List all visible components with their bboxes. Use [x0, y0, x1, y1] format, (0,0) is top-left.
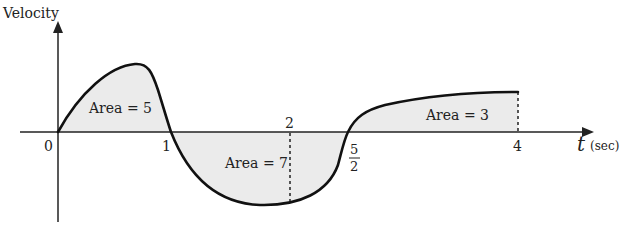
- tick-label-5-2-numerator: 5: [350, 142, 358, 157]
- region-area-5: [58, 64, 171, 132]
- velocity-diagram: Velocity 0 1 2 5 2 4 t (sec) Area = 5 Ar…: [0, 0, 622, 227]
- tick-label-1: 1: [162, 138, 171, 154]
- tick-label-0: 0: [44, 138, 53, 154]
- x-axis-unit: (sec): [590, 139, 619, 153]
- tick-label-5-2-denominator: 2: [350, 159, 358, 174]
- area-label-3: Area = 3: [425, 107, 489, 123]
- y-axis-label: Velocity: [2, 5, 59, 21]
- area-label-1: Area = 5: [88, 100, 152, 116]
- area-label-2: Area = 7: [224, 155, 288, 171]
- y-axis-arrow-icon: [53, 21, 63, 33]
- tick-label-2: 2: [285, 115, 294, 131]
- tick-label-4: 4: [513, 138, 522, 154]
- x-axis-variable: t: [577, 132, 586, 156]
